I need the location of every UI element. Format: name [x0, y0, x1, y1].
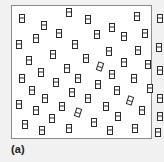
particle-container-box	[11, 5, 152, 139]
figure-panel-a: (a)	[0, 0, 164, 162]
diatomic-molecule-icon	[126, 95, 134, 105]
diatomic-molecule-icon	[142, 29, 148, 38]
diatomic-molecule-icon	[115, 112, 121, 121]
diatomic-molecule-icon	[39, 126, 45, 135]
particle-layer	[12, 6, 151, 138]
diatomic-molecule-icon	[41, 21, 47, 30]
diatomic-molecule-icon	[135, 46, 141, 55]
diatomic-molecule-icon	[64, 64, 70, 73]
diatomic-molecule-icon	[72, 40, 78, 49]
diatomic-molecule-icon	[139, 106, 145, 115]
diatomic-molecule-icon	[33, 106, 39, 115]
diatomic-molecule-icon	[19, 14, 25, 23]
diatomic-molecule-icon	[107, 126, 113, 135]
diatomic-molecule-icon	[42, 94, 48, 103]
diatomic-molecule-icon	[109, 23, 115, 32]
diatomic-molecule-icon	[96, 61, 104, 71]
diatomic-molecule-icon	[33, 34, 39, 43]
diatomic-molecule-icon	[50, 50, 56, 59]
diatomic-molecule-icon	[75, 74, 81, 83]
diatomic-molecule-icon	[85, 94, 91, 103]
diatomic-molecule-icon	[29, 86, 35, 95]
diatomic-molecule-icon	[69, 88, 75, 97]
diatomic-molecule-icon	[131, 74, 137, 83]
diatomic-molecule-icon	[56, 29, 62, 38]
diatomic-molecule-icon	[49, 114, 55, 123]
diatomic-molecule-icon	[66, 124, 72, 133]
diatomic-molecule-icon	[147, 84, 153, 93]
diatomic-molecule-icon	[95, 80, 101, 89]
diatomic-molecule-icon	[59, 102, 65, 111]
diatomic-molecule-icon	[66, 8, 72, 17]
diatomic-molecule-icon	[156, 43, 162, 52]
diatomic-molecule-icon	[106, 47, 112, 56]
diatomic-molecule-icon	[157, 94, 163, 103]
diatomic-molecule-icon	[121, 32, 127, 41]
diatomic-molecule-icon	[53, 78, 59, 87]
diatomic-molecule-icon	[132, 124, 138, 133]
diatomic-molecule-icon	[121, 58, 127, 67]
diatomic-molecule-icon	[157, 66, 163, 75]
diatomic-molecule-icon	[16, 100, 22, 109]
diatomic-molecule-icon	[19, 74, 25, 83]
diatomic-molecule-icon	[157, 14, 163, 23]
diatomic-molecule-icon	[103, 102, 109, 111]
diatomic-molecule-icon	[26, 56, 32, 65]
diatomic-molecule-icon	[22, 120, 28, 129]
diatomic-molecule-icon	[83, 54, 89, 63]
diatomic-molecule-icon	[155, 128, 161, 137]
diatomic-molecule-icon	[38, 68, 44, 77]
diatomic-molecule-icon	[145, 60, 151, 69]
panel-label: (a)	[11, 143, 25, 156]
diatomic-molecule-icon	[109, 70, 115, 79]
diatomic-molecule-icon	[74, 107, 82, 117]
diatomic-molecule-icon	[94, 30, 100, 39]
diatomic-molecule-icon	[157, 112, 163, 121]
diatomic-molecule-icon	[16, 40, 22, 49]
diatomic-molecule-icon	[134, 12, 140, 21]
diatomic-molecule-icon	[91, 118, 97, 127]
diatomic-molecule-icon	[85, 15, 91, 24]
diatomic-molecule-icon	[114, 86, 120, 95]
